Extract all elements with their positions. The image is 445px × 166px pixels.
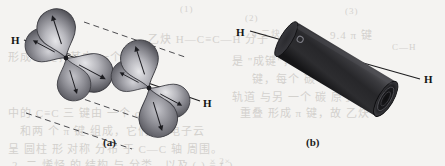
hydrogen-label-left-b: H	[236, 26, 245, 38]
carbon-atom-right	[106, 35, 196, 142]
carbon-nucleus-right	[147, 86, 152, 91]
panel-a-orbital-diagram	[0, 0, 445, 166]
figure-container: (1)(2)(3)4 二炔乙炔 H—C≡C—H 分子形成 π 键，其中 一个 π…	[0, 0, 445, 166]
hydrogen-label-right-b: H	[424, 73, 433, 85]
panel-caption-b: (b)	[306, 136, 319, 148]
panel-b-cylinder-diagram	[250, 19, 420, 120]
overlap-guide-line-bottom	[26, 113, 132, 149]
carbon-nucleus-left	[64, 56, 69, 61]
hydrogen-label-right-a: H	[203, 97, 212, 109]
hydrogen-label-left-a: H	[11, 34, 20, 46]
panel-caption-a: (a)	[103, 136, 116, 148]
